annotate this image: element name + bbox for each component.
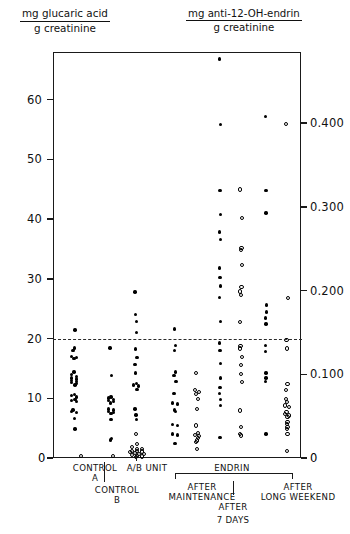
- data-point: [218, 266, 221, 269]
- data-point: [75, 400, 78, 403]
- data-point: [73, 383, 76, 386]
- plot-frame: [53, 52, 301, 458]
- data-point: [135, 356, 138, 359]
- data-point: [264, 189, 267, 192]
- data-point: [219, 362, 222, 365]
- data-point: [284, 388, 288, 392]
- right-axis-tick-label: 0.200: [310, 284, 344, 298]
- data-point: [79, 454, 83, 458]
- data-point: [239, 248, 243, 252]
- group-label-control-b-line2: B: [80, 495, 154, 506]
- data-point: [134, 413, 137, 416]
- data-point: [171, 401, 174, 404]
- left-axis-tick-label: 30: [0, 272, 42, 286]
- right-axis-zero-label: 0: [310, 451, 317, 465]
- data-point: [218, 276, 221, 279]
- left-axis-tick: [47, 278, 53, 279]
- data-point: [239, 363, 243, 367]
- left-axis-tick: [47, 99, 53, 100]
- data-point: [194, 440, 198, 444]
- data-point: [240, 216, 244, 220]
- data-point: [219, 213, 222, 216]
- scatter-plot-area: [54, 53, 300, 457]
- data-point: [218, 230, 221, 233]
- data-point: [286, 296, 290, 300]
- data-point: [72, 357, 75, 360]
- data-point: [135, 320, 138, 323]
- data-point: [110, 374, 113, 377]
- right-axis-tick: [301, 122, 307, 123]
- group-label-ab-unit: A/B UNIT: [110, 463, 184, 474]
- data-point: [194, 392, 198, 396]
- data-point: [218, 341, 221, 344]
- data-point: [196, 397, 200, 401]
- endrin-group-brace: [175, 473, 293, 479]
- data-point: [239, 372, 243, 376]
- data-point: [239, 293, 243, 297]
- data-point: [174, 380, 177, 383]
- data-point: [73, 417, 76, 420]
- data-point: [70, 410, 73, 413]
- data-point: [195, 447, 199, 451]
- data-point: [219, 320, 222, 323]
- right-axis-tick: [301, 290, 307, 291]
- data-point: [218, 436, 221, 439]
- data-point: [172, 392, 175, 395]
- data-point: [218, 349, 221, 352]
- left-axis-tick-label: 40: [0, 212, 42, 226]
- data-point: [134, 313, 137, 316]
- data-point: [111, 454, 115, 458]
- data-point: [218, 57, 221, 60]
- data-point: [240, 355, 244, 359]
- data-point: [264, 115, 267, 118]
- data-point: [70, 394, 73, 397]
- data-point: [75, 411, 78, 414]
- data-point: [264, 211, 267, 214]
- data-point: [218, 392, 221, 395]
- left-axis-tick: [47, 398, 53, 399]
- data-point: [264, 380, 267, 383]
- left-axis-tick-label: 60: [0, 93, 42, 107]
- right-axis-zero-tick: [301, 457, 307, 458]
- data-point: [283, 403, 287, 407]
- data-point: [171, 432, 174, 435]
- data-point: [265, 303, 268, 306]
- right-axis-tick: [301, 374, 307, 375]
- data-point: [219, 376, 222, 379]
- right-axis-tick-label: 0.100: [310, 367, 344, 381]
- right-axis-title-denominator: g creatinine: [186, 21, 302, 33]
- data-point: [194, 371, 198, 375]
- data-point: [285, 449, 289, 453]
- data-point: [264, 376, 267, 379]
- data-point: [109, 401, 112, 404]
- data-point: [218, 296, 221, 299]
- left-axis-title-denominator: g creatinine: [20, 22, 110, 35]
- data-point: [135, 418, 138, 421]
- data-point: [219, 404, 222, 407]
- data-point: [73, 427, 76, 430]
- data-point: [238, 320, 242, 324]
- data-point: [240, 380, 244, 384]
- data-point: [285, 346, 289, 350]
- data-point: [239, 433, 243, 437]
- data-point: [285, 432, 289, 436]
- data-point: [135, 442, 139, 446]
- data-point: [219, 123, 222, 126]
- data-point: [134, 432, 138, 436]
- data-point: [285, 427, 289, 431]
- group-label-after-7days-line1: AFTER: [196, 502, 270, 513]
- data-point: [238, 346, 242, 350]
- group-label-after-7days-line2: 7 DAYS: [196, 515, 270, 526]
- data-point: [219, 398, 222, 401]
- data-point: [219, 238, 222, 241]
- data-point: [108, 346, 111, 349]
- threshold-dashed-line: [53, 339, 302, 340]
- data-point: [73, 328, 76, 331]
- data-point: [284, 122, 288, 126]
- data-point: [133, 290, 136, 293]
- data-point: [70, 399, 73, 402]
- data-point: [287, 405, 291, 409]
- data-point: [265, 310, 268, 313]
- data-point: [172, 374, 175, 377]
- group-divider-controls: [104, 462, 105, 482]
